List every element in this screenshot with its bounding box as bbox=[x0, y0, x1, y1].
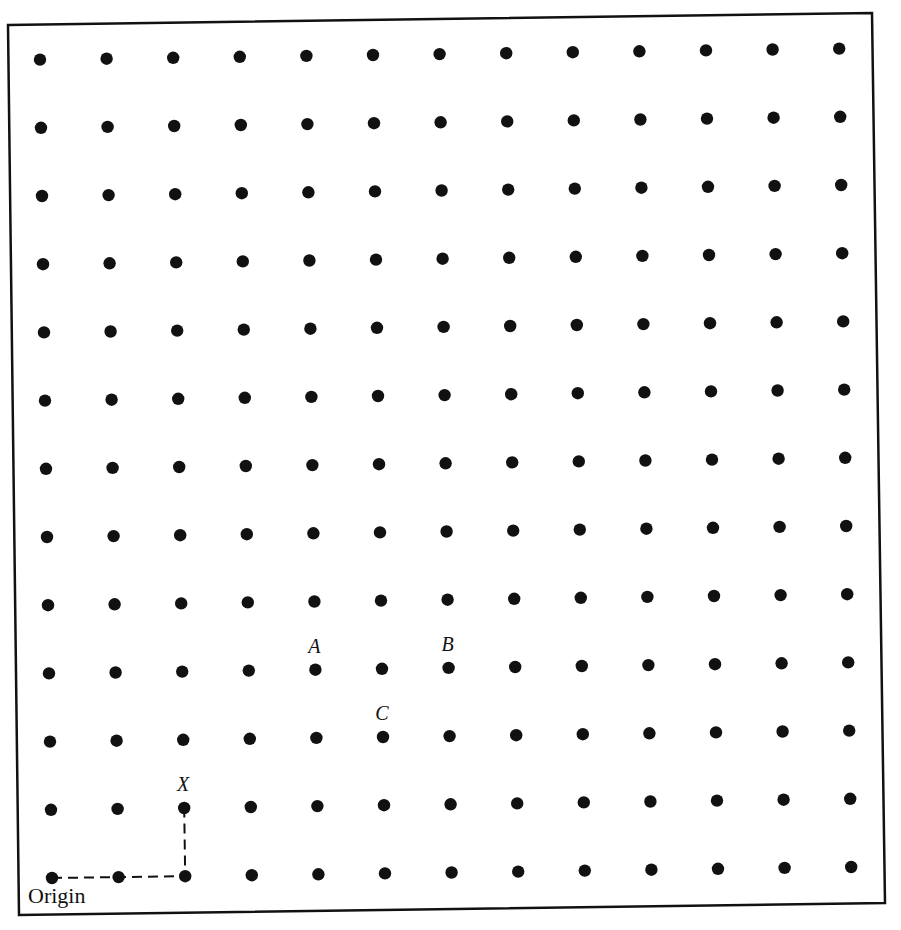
lattice-dot bbox=[172, 393, 184, 405]
lattice-dot bbox=[444, 798, 456, 810]
lattice-dot bbox=[36, 190, 48, 202]
lattice-dot bbox=[638, 386, 650, 398]
lattice-dot bbox=[639, 454, 651, 466]
lattice-dot bbox=[838, 383, 850, 395]
lattice-dot bbox=[237, 255, 249, 267]
lattice-dot bbox=[575, 592, 587, 604]
lattice-dot bbox=[705, 385, 717, 397]
lattice-dot bbox=[110, 735, 122, 747]
lattice-dot bbox=[302, 186, 314, 198]
lattice-dot bbox=[309, 664, 321, 676]
lattice-dot bbox=[502, 183, 514, 195]
lattice-dot bbox=[568, 114, 580, 126]
lattice-dot bbox=[368, 117, 380, 129]
lattice-dot bbox=[707, 522, 719, 534]
lattice-dot bbox=[712, 863, 724, 875]
lattice-dot bbox=[773, 521, 785, 533]
lattice-dot bbox=[40, 463, 52, 475]
lattice-dot bbox=[509, 661, 521, 673]
lattice-dot bbox=[378, 799, 390, 811]
lattice-dot bbox=[37, 258, 49, 270]
lattice-dot bbox=[512, 865, 524, 877]
lattice-dot bbox=[234, 51, 246, 63]
lattice-dot bbox=[369, 185, 381, 197]
lattice-dot bbox=[711, 794, 723, 806]
lattice-dot bbox=[834, 111, 846, 123]
lattice-dot bbox=[109, 666, 121, 678]
lattice-dot bbox=[300, 50, 312, 62]
lattice-dot bbox=[434, 116, 446, 128]
lattice-dot bbox=[839, 452, 851, 464]
lattice-dot bbox=[708, 590, 720, 602]
lattice-dot bbox=[637, 318, 649, 330]
lattice-dot bbox=[111, 803, 123, 815]
lattice-dot bbox=[310, 732, 322, 744]
point-label-x: X bbox=[176, 773, 190, 795]
lattice-dot bbox=[312, 868, 324, 880]
lattice-dot bbox=[641, 591, 653, 603]
lattice-dot bbox=[439, 457, 451, 469]
lattice-dot bbox=[34, 53, 46, 65]
lattice-dot bbox=[769, 248, 781, 260]
lattice-dot bbox=[238, 323, 250, 335]
lattice-dot bbox=[39, 394, 51, 406]
point-label-b: B bbox=[441, 633, 453, 655]
lattice-dot bbox=[508, 593, 520, 605]
dashed-path bbox=[52, 808, 185, 878]
lattice-dot bbox=[843, 724, 855, 736]
lattice-dot bbox=[645, 864, 657, 876]
lattice-dot bbox=[307, 527, 319, 539]
lattice-dot bbox=[311, 800, 323, 812]
lattice-dot bbox=[102, 189, 114, 201]
lattice-dot bbox=[301, 118, 313, 130]
lattice-dot bbox=[772, 453, 784, 465]
lattice-dot bbox=[103, 257, 115, 269]
lattice-dot bbox=[644, 795, 656, 807]
lattice-dot bbox=[100, 53, 112, 65]
lattice-dot bbox=[244, 733, 256, 745]
lattice-dot bbox=[837, 315, 849, 327]
lattice-dot bbox=[771, 384, 783, 396]
lattice-dot bbox=[374, 526, 386, 538]
lattice-dot bbox=[45, 804, 57, 816]
lattice-dot bbox=[507, 524, 519, 536]
lattice-dot bbox=[245, 801, 257, 813]
lattice-dot bbox=[175, 597, 187, 609]
lattice-dot bbox=[636, 250, 648, 262]
lattice-dot bbox=[833, 42, 845, 54]
lattice-dot bbox=[573, 455, 585, 467]
lattice-dot bbox=[43, 667, 55, 679]
lattice-dot bbox=[437, 321, 449, 333]
point-label-c: C bbox=[375, 702, 389, 724]
lattice-dot bbox=[377, 731, 389, 743]
lattice-dot bbox=[108, 598, 120, 610]
lattice-dot bbox=[700, 44, 712, 56]
lattice-dot bbox=[370, 253, 382, 265]
lattice-dot bbox=[303, 254, 315, 266]
lattice-dot bbox=[371, 322, 383, 334]
lattice-dot bbox=[305, 391, 317, 403]
lattice-dot bbox=[38, 326, 50, 338]
lattice-dot bbox=[706, 453, 718, 465]
lattice-dot bbox=[572, 387, 584, 399]
lattice-dot bbox=[306, 459, 318, 471]
lattice-dot bbox=[35, 122, 47, 134]
lattice-dot bbox=[770, 316, 782, 328]
origin-to-x-path bbox=[52, 808, 185, 878]
point-label-a: A bbox=[306, 635, 321, 657]
lattice-dot bbox=[242, 596, 254, 608]
lattice-dot bbox=[168, 120, 180, 132]
lattice-dot bbox=[441, 594, 453, 606]
lattice-dot bbox=[436, 253, 448, 265]
lattice-dot bbox=[167, 52, 179, 64]
lattice-dot bbox=[710, 726, 722, 738]
lattice-dot bbox=[176, 665, 188, 677]
lattice-dot bbox=[304, 323, 316, 335]
point-labels: ABCX bbox=[176, 633, 454, 795]
lattice-dot bbox=[445, 866, 457, 878]
lattice-dot bbox=[240, 460, 252, 472]
lattice-dot bbox=[372, 390, 384, 402]
lattice-dot bbox=[766, 43, 778, 55]
lattice-dot bbox=[841, 588, 853, 600]
lattice-dot bbox=[576, 660, 588, 672]
